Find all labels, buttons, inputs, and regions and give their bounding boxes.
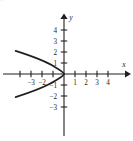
x-tick-label-1: 1: [73, 79, 77, 87]
y-tick-label-2: 2: [53, 49, 57, 57]
x-axis-label: x: [121, 60, 126, 69]
y-axis-arrowhead: [60, 14, 67, 20]
x-tick-label-3: 3: [95, 79, 99, 87]
x-axis-tick-labels: −3 −2 1 2 3 4: [27, 79, 110, 87]
x-tick-label--3: −3: [27, 79, 35, 87]
x-tick-label-2: 2: [84, 79, 88, 87]
axes-group: [3, 14, 131, 137]
coordinate-plot: −3 −2 1 2 3 4 4 3 2 1 −1 −2 −3 x y: [0, 0, 133, 141]
y-tick-label--2: −2: [49, 93, 57, 101]
figure-container: ¨ −3 −2: [0, 0, 133, 141]
y-axis-label: y: [68, 13, 73, 22]
y-axis-tick-labels: 4 3 2 1 −1 −2 −3: [49, 27, 57, 112]
y-tick-label--3: −3: [49, 104, 57, 112]
y-tick-label-3: 3: [53, 38, 57, 46]
x-tick-label-4: 4: [106, 79, 110, 87]
x-axis-arrowhead: [125, 70, 131, 77]
y-tick-label-4: 4: [53, 27, 57, 35]
